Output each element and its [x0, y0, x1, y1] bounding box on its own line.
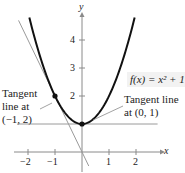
tangent-right-line1: Tangent line — [124, 93, 179, 106]
x-tick-label: 1 — [106, 157, 111, 167]
tangent-left-line2: line at — [2, 100, 37, 113]
function-label: f(x) = x² + 1 — [127, 72, 185, 87]
leader-line-right — [93, 106, 123, 120]
tangent-left-line1: Tangent — [2, 87, 37, 100]
leader-line-left — [40, 103, 52, 109]
tangent-point — [79, 121, 84, 126]
x-tick-label: −2 — [20, 157, 31, 167]
y-tick-label: 4 — [70, 35, 75, 45]
tangent-right-line2: at (0, 1) — [124, 106, 179, 119]
x-tick-label: 2 — [133, 157, 138, 167]
y-tick-label: 3 — [70, 63, 75, 73]
tangent-point — [52, 93, 57, 98]
x-axis-label: x — [164, 146, 168, 156]
tangent-right-annotation: Tangent line at (0, 1) — [124, 93, 179, 119]
y-axis-arrow-icon — [80, 12, 85, 17]
y-tick-label: 2 — [70, 91, 75, 101]
y-axis-label: y — [79, 2, 83, 12]
x-tick-label: −1 — [47, 157, 58, 167]
tangent-left-line3: (−1, 2) — [2, 113, 37, 126]
tangent-left-annotation: Tangent line at (−1, 2) — [2, 87, 37, 126]
